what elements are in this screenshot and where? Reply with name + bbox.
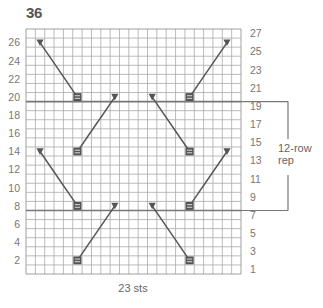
box-equals-icon (73, 256, 81, 264)
box-equals-icon (186, 202, 194, 210)
left-row-number: 26 (8, 36, 20, 48)
right-row-number: 25 (250, 45, 262, 57)
box-fill (186, 148, 194, 156)
left-row-numbers: 2468101214161820222426 (8, 36, 20, 266)
right-row-number: 5 (250, 227, 256, 239)
cable-line (77, 97, 114, 151)
box-fill (73, 202, 81, 210)
left-row-number: 8 (14, 200, 20, 212)
box-fill (73, 148, 81, 156)
cable-line (77, 206, 114, 260)
cable-lines (40, 43, 227, 261)
box-equals-icon (73, 93, 81, 101)
box-fill (186, 202, 194, 210)
cable-line (40, 43, 77, 97)
box-equals-icon (73, 148, 81, 156)
left-row-number: 16 (8, 127, 20, 139)
cable-line (190, 43, 227, 97)
chart-grid (26, 29, 241, 274)
box-fill (73, 256, 81, 264)
left-row-number: 4 (14, 236, 20, 248)
box-fill (186, 93, 194, 101)
left-row-number: 14 (8, 145, 20, 157)
left-row-number: 12 (8, 163, 20, 175)
repeat-label-line2: rep (278, 154, 294, 166)
left-row-number: 22 (8, 73, 20, 85)
box-fill (73, 93, 81, 101)
box-equals-icon (186, 93, 194, 101)
left-row-number: 18 (8, 109, 20, 121)
stitch-symbols (36, 39, 230, 264)
box-equals-icon (186, 148, 194, 156)
left-row-number: 10 (8, 182, 20, 194)
right-row-number: 17 (250, 118, 262, 130)
stitch-count-label: 23 sts (118, 282, 148, 294)
left-row-number: 24 (8, 55, 20, 67)
cable-line (152, 206, 189, 260)
cable-line (190, 152, 227, 206)
left-row-number: 6 (14, 218, 20, 230)
right-row-number: 13 (250, 154, 262, 166)
right-row-number: 9 (250, 191, 256, 203)
cable-line (40, 152, 77, 206)
box-fill (186, 256, 194, 264)
cable-line (152, 97, 189, 151)
right-row-number: 3 (250, 245, 256, 257)
right-row-number: 1 (250, 263, 256, 275)
box-equals-icon (73, 202, 81, 210)
right-row-number: 15 (250, 136, 262, 148)
box-equals-icon (186, 256, 194, 264)
left-row-number: 2 (14, 254, 20, 266)
repeat-label-line1: 12-row (278, 142, 312, 154)
right-row-numbers: 13579111315171921232527 (250, 27, 262, 275)
right-row-number: 11 (250, 173, 261, 185)
left-row-number: 20 (8, 91, 20, 103)
right-row-number: 27 (250, 27, 262, 39)
knitting-chart: 2468101214161820222426 13579111315171921… (0, 0, 323, 308)
right-row-number: 21 (250, 82, 262, 94)
right-row-number: 23 (250, 64, 262, 76)
